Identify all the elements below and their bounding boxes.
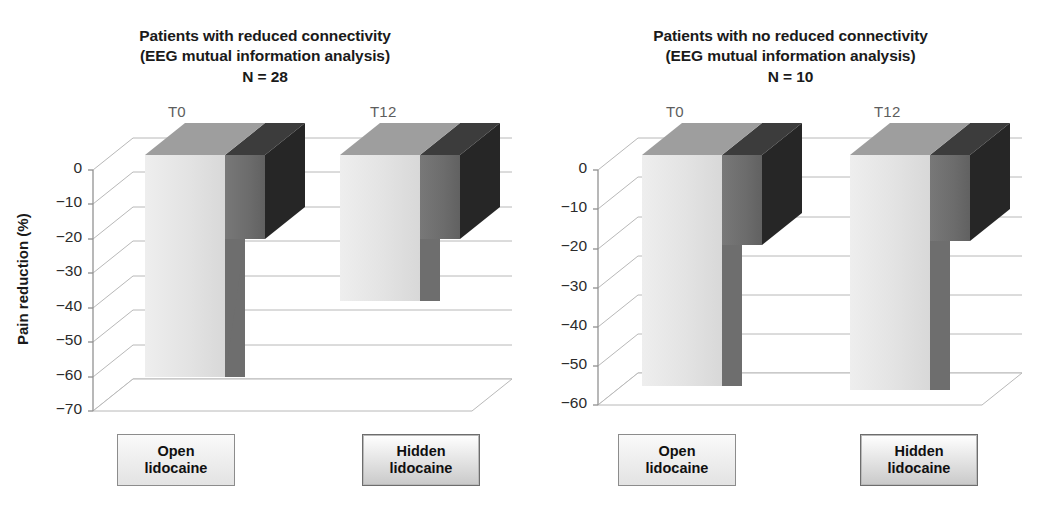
panel-right-plot bbox=[530, 0, 1051, 440]
chart-panel-right: Patients with no reduced connectivity (E… bbox=[530, 0, 1051, 517]
panel-right-legend-open[interactable]: Open lidocaine bbox=[618, 434, 736, 486]
panel-right-legend-hidden-line2: lidocaine bbox=[888, 460, 951, 477]
panel-left-plot bbox=[0, 0, 530, 440]
panel-left-legend-hidden[interactable]: Hidden lidocaine bbox=[362, 434, 480, 486]
panel-left-legend-open-line2: lidocaine bbox=[145, 460, 208, 477]
panel-right-legend-open-line2: lidocaine bbox=[646, 460, 709, 477]
chart-panel-left: Patients with reduced connectivity (EEG … bbox=[0, 0, 530, 517]
panel-left-legend-hidden-line2: lidocaine bbox=[390, 460, 453, 477]
panel-left-legend-open-line1: Open bbox=[145, 443, 208, 460]
panel-right-legend-open-line1: Open bbox=[646, 443, 709, 460]
panel-left-legend-hidden-line1: Hidden bbox=[390, 443, 453, 460]
panel-right-legend-hidden[interactable]: Hidden lidocaine bbox=[860, 434, 978, 486]
panel-right-legend-hidden-line1: Hidden bbox=[888, 443, 951, 460]
panel-left-floor bbox=[93, 379, 512, 411]
panel-left-bar-t0-open bbox=[145, 123, 265, 377]
figure-root: Patients with reduced connectivity (EEG … bbox=[0, 0, 1051, 517]
panel-left-yticks-marks bbox=[88, 170, 93, 411]
panel-left-legend-open[interactable]: Open lidocaine bbox=[117, 434, 235, 486]
panel-right-yticks-marks bbox=[593, 170, 598, 405]
